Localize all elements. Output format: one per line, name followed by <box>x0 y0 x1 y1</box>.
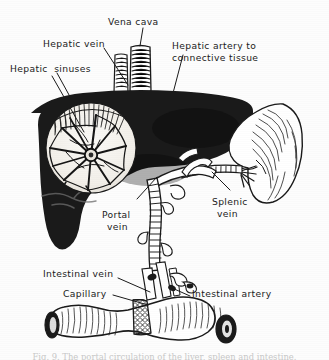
intestinal-vessels <box>142 262 197 300</box>
label-splenic-vein-2: vein <box>217 208 238 219</box>
intestine-cut-end-right <box>216 315 236 343</box>
leader-vena-cava <box>140 28 143 46</box>
label-splenic-vein-1: Splenic <box>212 196 248 207</box>
label-portal-vein-2: vein <box>107 221 128 232</box>
label-hepatic-sinuses: Hepatic sinuses <box>10 63 91 74</box>
label-vena-cava: Vena cava <box>108 16 159 27</box>
anatomical-figure <box>0 0 329 360</box>
label-hepatic-artery-2: connective tissue <box>172 52 258 63</box>
label-hepatic-vein: Hepatic vein <box>43 38 105 49</box>
vena-cava-structure <box>130 46 151 94</box>
intestine-cut-end-left <box>45 312 59 338</box>
figure-caption: Fig. 9. The portal circulation of the li… <box>0 352 329 360</box>
label-capillary: Capillary <box>63 288 107 299</box>
label-portal-vein-1: Portal <box>102 209 131 220</box>
label-intestinal-vein: Intestinal vein <box>43 268 113 279</box>
label-intestinal-artery: Intestinal artery <box>192 288 271 299</box>
leader-splenic-vein <box>212 172 230 190</box>
label-hepatic-artery-1: Hepatic artery to <box>172 40 256 51</box>
intestine-organ <box>45 297 236 343</box>
